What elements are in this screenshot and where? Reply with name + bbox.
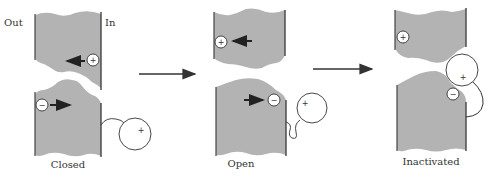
open-state-panel: + − + Open [214,8,327,169]
inactivation-ball: + [119,118,151,150]
negative-charge-gate: − [268,94,280,106]
inactivated-state-panel: + − + Inactivated [395,8,483,167]
state-caption-inactivated: Inactivated [402,156,460,167]
membrane-top-closed [35,11,101,88]
inactivation-ball: + [297,93,327,123]
positive-charge-gate: + [87,54,99,66]
negative-charge-gate: − [447,88,459,100]
in-label: In [105,17,116,28]
positive-charge-gate: + [215,36,227,48]
svg-text:−: − [39,101,46,110]
svg-text:−: − [450,90,457,99]
state-caption-open: Open [228,158,256,169]
svg-text:+: + [138,126,145,135]
svg-text:−: − [271,96,278,105]
tether-chain [286,120,300,138]
svg-text:+: + [400,33,407,42]
svg-text:+: + [302,99,309,108]
tether-chain [466,82,483,117]
membrane-bottom-closed [35,79,101,156]
closed-state-panel: Out In + − + Closed [4,11,151,170]
svg-text:+: + [90,56,97,65]
svg-text:+: + [460,73,467,82]
membrane-bottom-open [216,78,286,155]
negative-charge-gate: − [36,99,48,111]
positive-charge-gate: + [397,31,409,43]
tether-chain [101,119,124,125]
state-caption-closed: Closed [51,159,86,170]
inactivation-ball: + [446,54,478,86]
out-label: Out [4,17,23,28]
ion-channel-gating-diagram: Out In + − + Closed [0,0,494,177]
svg-text:+: + [218,38,225,47]
